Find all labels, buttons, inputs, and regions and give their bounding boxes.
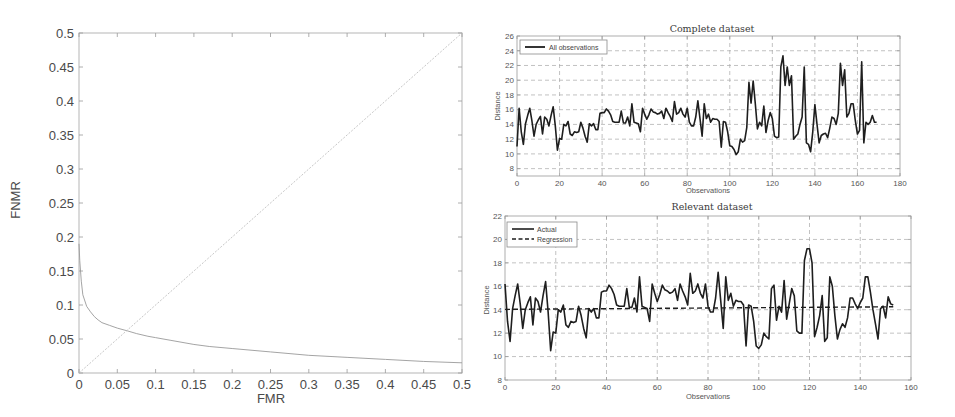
x-tick-label: 0 [75,377,82,392]
x-tick-label: 0.35 [334,377,359,392]
y-tick-label: 18 [493,259,502,268]
x-tick-label: 0.45 [411,377,436,392]
plot-frame [517,36,900,176]
x-tick-label: 60 [653,383,662,392]
x-tick-label: 0.3 [300,377,318,392]
series-actual [505,249,893,351]
y-tick-label: 24 [505,47,514,56]
relevant-dataset-legend: Actual Regression [507,222,577,247]
y-tick-label: 10 [505,150,514,159]
y-tick-label: 0.25 [49,196,74,211]
det-y-axis-label: FNMR [8,181,23,219]
y-tick-label: 0.5 [56,26,74,41]
complete-y-axis-label: Distance [493,91,502,120]
y-tick-label: 14 [505,120,514,129]
x-tick-label: 0.05 [105,377,130,392]
y-tick-label: 8 [510,164,515,173]
x-tick-label: 180 [893,179,907,188]
relevant-y-axis-label: Distance [482,285,491,314]
y-tick-label: 0.15 [49,264,74,279]
x-tick-label: 140 [854,383,868,392]
relevant-x-axis-label: Observations [686,392,730,401]
x-tick-label: 60 [640,179,649,188]
x-tick-label: 20 [551,383,560,392]
x-tick-label: 120 [803,383,817,392]
y-tick-label: 10 [493,352,502,361]
y-tick-label: 16 [493,282,502,291]
y-tick-label: 8 [498,376,503,385]
y-tick-label: 20 [493,235,502,244]
x-tick-label: 0.15 [181,377,206,392]
x-tick-label: 0.25 [258,377,283,392]
x-tick-label: 0 [503,383,508,392]
x-tick-label: 40 [602,383,611,392]
legend-label-all-observations: All observations [549,44,599,51]
y-tick-label: 0.1 [56,298,74,313]
x-tick-label: 160 [904,383,918,392]
complete-dataset-chart: 0204060801001201401601808101214161820222… [505,32,907,188]
y-tick-label: 22 [493,212,502,221]
figure-canvas: 00.050.10.150.20.250.30.350.40.450.500.0… [0,0,955,417]
series-eer-line [79,33,462,373]
complete-x-axis-label: Observations [686,186,730,195]
x-tick-label: 160 [851,179,865,188]
y-tick-label: 0.05 [49,332,74,347]
x-tick-label: 0.2 [223,377,241,392]
series-fnmr-vs-fmr [79,244,462,363]
y-tick-label: 20 [505,76,514,85]
x-tick-label: 0.5 [453,377,471,392]
legend-label-actual: Actual [537,226,557,233]
x-tick-label: 0.4 [376,377,394,392]
legend-label-regression: Regression [537,236,573,244]
y-tick-label: 12 [493,329,502,338]
x-tick-label: 0 [515,179,520,188]
y-tick-label: 0.3 [56,162,74,177]
x-tick-label: 0.1 [147,377,165,392]
y-tick-label: 0.45 [49,60,74,75]
y-tick-label: 0.2 [56,230,74,245]
det-x-axis-label: FMR [257,391,285,406]
relevant-dataset-title: Relevant dataset [672,201,753,212]
y-tick-label: 18 [505,91,514,100]
y-tick-label: 14 [493,306,502,315]
complete-dataset-legend: All observations [520,40,607,54]
x-tick-label: 40 [598,179,607,188]
det-chart: 00.050.10.150.20.250.30.350.40.450.500.0… [49,26,471,392]
complete-dataset-title: Complete dataset [670,23,755,34]
y-tick-label: 22 [505,61,514,70]
x-tick-label: 120 [766,179,780,188]
y-tick-label: 12 [505,135,514,144]
series-all-observations [517,56,877,155]
y-tick-label: 26 [505,32,514,41]
y-tick-label: 0.4 [56,94,74,109]
x-tick-label: 100 [752,383,766,392]
y-tick-label: 0.35 [49,128,74,143]
x-tick-label: 140 [808,179,822,188]
y-tick-label: 0 [67,366,74,381]
x-tick-label: 20 [555,179,564,188]
x-tick-label: 80 [704,383,713,392]
y-tick-label: 16 [505,105,514,114]
